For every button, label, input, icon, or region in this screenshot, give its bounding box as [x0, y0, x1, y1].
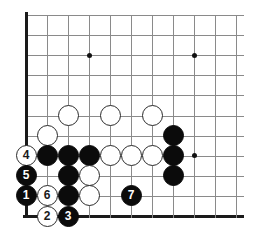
- grid-line-horizontal: [26, 35, 244, 36]
- stone-white-move-2[interactable]: 2: [37, 206, 58, 227]
- move-number-label: 5: [23, 169, 30, 181]
- stone-black[interactable]: [58, 145, 79, 166]
- stone-white[interactable]: [100, 105, 121, 126]
- move-number-label: 2: [44, 210, 51, 222]
- stone-black-move-3[interactable]: 3: [58, 206, 79, 227]
- stone-black[interactable]: [163, 145, 184, 166]
- grid-line-vertical: [194, 15, 195, 218]
- grid-line-vertical: [173, 15, 174, 218]
- grid-line-horizontal: [26, 55, 244, 56]
- move-number-label: 6: [44, 189, 51, 201]
- stone-black-move-1[interactable]: 1: [16, 185, 37, 206]
- stone-white[interactable]: [79, 185, 100, 206]
- move-number-label: 4: [23, 149, 30, 161]
- stone-black[interactable]: [79, 145, 100, 166]
- stone-white[interactable]: [58, 105, 79, 126]
- grid-line-vertical: [215, 15, 216, 218]
- stone-white[interactable]: [37, 125, 58, 146]
- go-board: 4516723: [0, 0, 260, 227]
- stone-white[interactable]: [142, 105, 163, 126]
- stone-black[interactable]: [58, 185, 79, 206]
- grid-line-horizontal: [26, 75, 244, 76]
- grid-line-vertical: [236, 15, 237, 218]
- stone-white-move-6[interactable]: 6: [37, 185, 58, 206]
- grid-line-horizontal: [26, 15, 244, 16]
- move-number-label: 1: [23, 189, 30, 201]
- grid-line-horizontal: [26, 95, 244, 96]
- move-number-label: 7: [128, 189, 135, 201]
- stone-white[interactable]: [142, 145, 163, 166]
- star-point: [192, 53, 197, 58]
- stone-white-move-4[interactable]: 4: [16, 145, 37, 166]
- stone-white[interactable]: [100, 145, 121, 166]
- stone-black[interactable]: [58, 165, 79, 186]
- go-diagram: 4516723: [0, 0, 260, 227]
- stone-black[interactable]: [37, 145, 58, 166]
- star-point: [87, 53, 92, 58]
- stone-black-move-7[interactable]: 7: [121, 185, 142, 206]
- stone-black-move-5[interactable]: 5: [16, 165, 37, 186]
- stone-white[interactable]: [121, 145, 142, 166]
- stone-black[interactable]: [163, 165, 184, 186]
- grid-line-horizontal: [26, 136, 244, 137]
- move-number-label: 3: [65, 210, 72, 222]
- stone-black[interactable]: [163, 125, 184, 146]
- star-point: [192, 153, 197, 158]
- stone-white[interactable]: [79, 165, 100, 186]
